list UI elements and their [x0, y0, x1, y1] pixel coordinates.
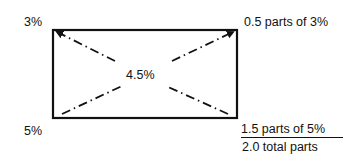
top-left-concentration: 3% — [24, 15, 42, 29]
diagonal-line-b-upper — [172, 32, 233, 61]
bottom-left-concentration: 5% — [24, 124, 42, 138]
diagonal-line-a-upper — [57, 32, 115, 61]
center-target-concentration: 4.5% — [126, 68, 155, 82]
bottom-right-parts: 1.5 parts of 5% — [241, 122, 343, 138]
total-parts: 2.0 total parts — [242, 140, 318, 154]
diagonal-line-a — [166, 86, 228, 114]
diagonal-line-b — [62, 86, 122, 114]
top-right-parts: 0.5 parts of 3% — [244, 15, 328, 29]
